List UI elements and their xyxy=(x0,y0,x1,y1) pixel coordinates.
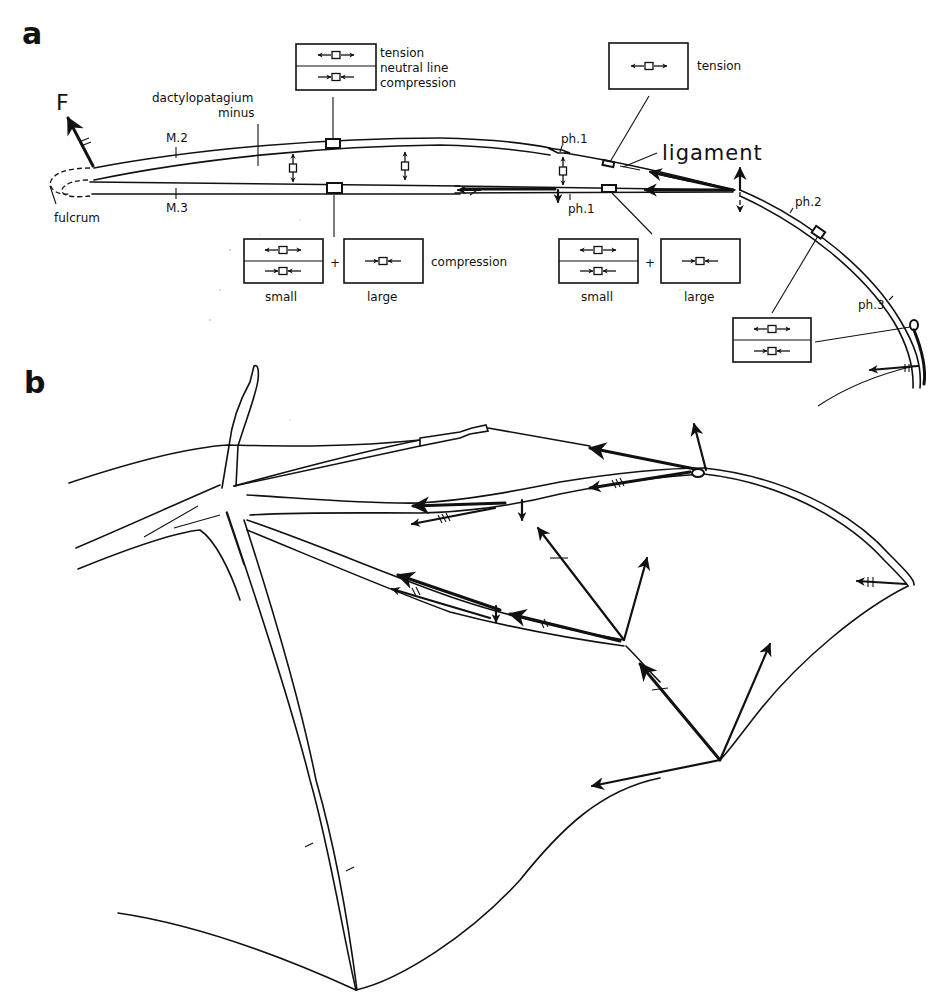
plus-sign-right: + xyxy=(645,256,655,270)
metacarpal-2-upper-edge xyxy=(94,138,550,168)
plus-sign-left: + xyxy=(330,256,340,270)
digit-4-upper xyxy=(247,520,624,640)
dactylopatagium-label-1: dactylopatagium xyxy=(152,91,253,105)
panel-a-label: a xyxy=(22,16,42,51)
ph3-label: ph.3 xyxy=(858,298,885,312)
large-label-right: large xyxy=(684,290,714,304)
large-label-left: large xyxy=(367,290,397,304)
limb-inner xyxy=(244,520,357,990)
panel-b: b xyxy=(24,365,914,990)
panel-a: a F fulcrum M.2 dactylopatagium minus M.… xyxy=(22,16,925,406)
compression-side-label: compression xyxy=(431,255,507,269)
m3-label: M.3 xyxy=(166,201,188,215)
ph2-label: ph.2 xyxy=(795,195,822,209)
membrane-trailing-edge-distal xyxy=(720,586,908,760)
forearm-upper xyxy=(76,485,220,548)
small-label-left: small xyxy=(265,290,297,304)
fulcrum-outline xyxy=(50,168,90,194)
force-arrow-icon xyxy=(68,118,93,166)
legend-compression: compression xyxy=(380,76,456,90)
bat-wing-stress-diagram: a F fulcrum M.2 dactylopatagium minus M.… xyxy=(0,0,948,1007)
metacarpal-2-lower-edge xyxy=(94,145,550,180)
m2-label: M.2 xyxy=(166,131,188,145)
dactylopatagium-label-2: minus xyxy=(218,106,255,120)
sample-point-upper xyxy=(326,139,340,148)
membrane-trailing-edge-plagio xyxy=(118,913,356,990)
forearm-lower xyxy=(78,530,240,600)
panel-b-label: b xyxy=(24,365,45,400)
digit-3-upper xyxy=(247,468,704,503)
legend-tension: tension xyxy=(380,46,424,60)
thumb xyxy=(229,366,258,486)
digit-5-joint xyxy=(626,646,660,682)
ph1-lower-label: ph.1 xyxy=(568,202,595,216)
digit-3-distal-outer xyxy=(704,468,914,585)
legend-neutral-line: neutral line xyxy=(380,61,448,75)
fulcrum-label: fulcrum xyxy=(54,211,100,225)
sample-point-lower xyxy=(327,183,342,193)
ph1-upper-label: ph.1 xyxy=(561,132,588,146)
legend-box-tension-compression: tension neutral line compression xyxy=(296,44,456,138)
ligament-label: ligament xyxy=(662,141,763,165)
digit-2-upper xyxy=(234,440,420,486)
small-label-right: small xyxy=(581,290,613,304)
force-label: F xyxy=(56,90,69,115)
metacarpal-3-upper-edge xyxy=(90,182,460,186)
limb-outer xyxy=(227,512,356,990)
stress-box-group-left: + compression small large xyxy=(244,195,507,304)
membrane-trailing-edge-proximal xyxy=(356,778,660,990)
tension-arrow-digit2 xyxy=(590,448,700,470)
tension-right-label: tension xyxy=(697,59,741,73)
